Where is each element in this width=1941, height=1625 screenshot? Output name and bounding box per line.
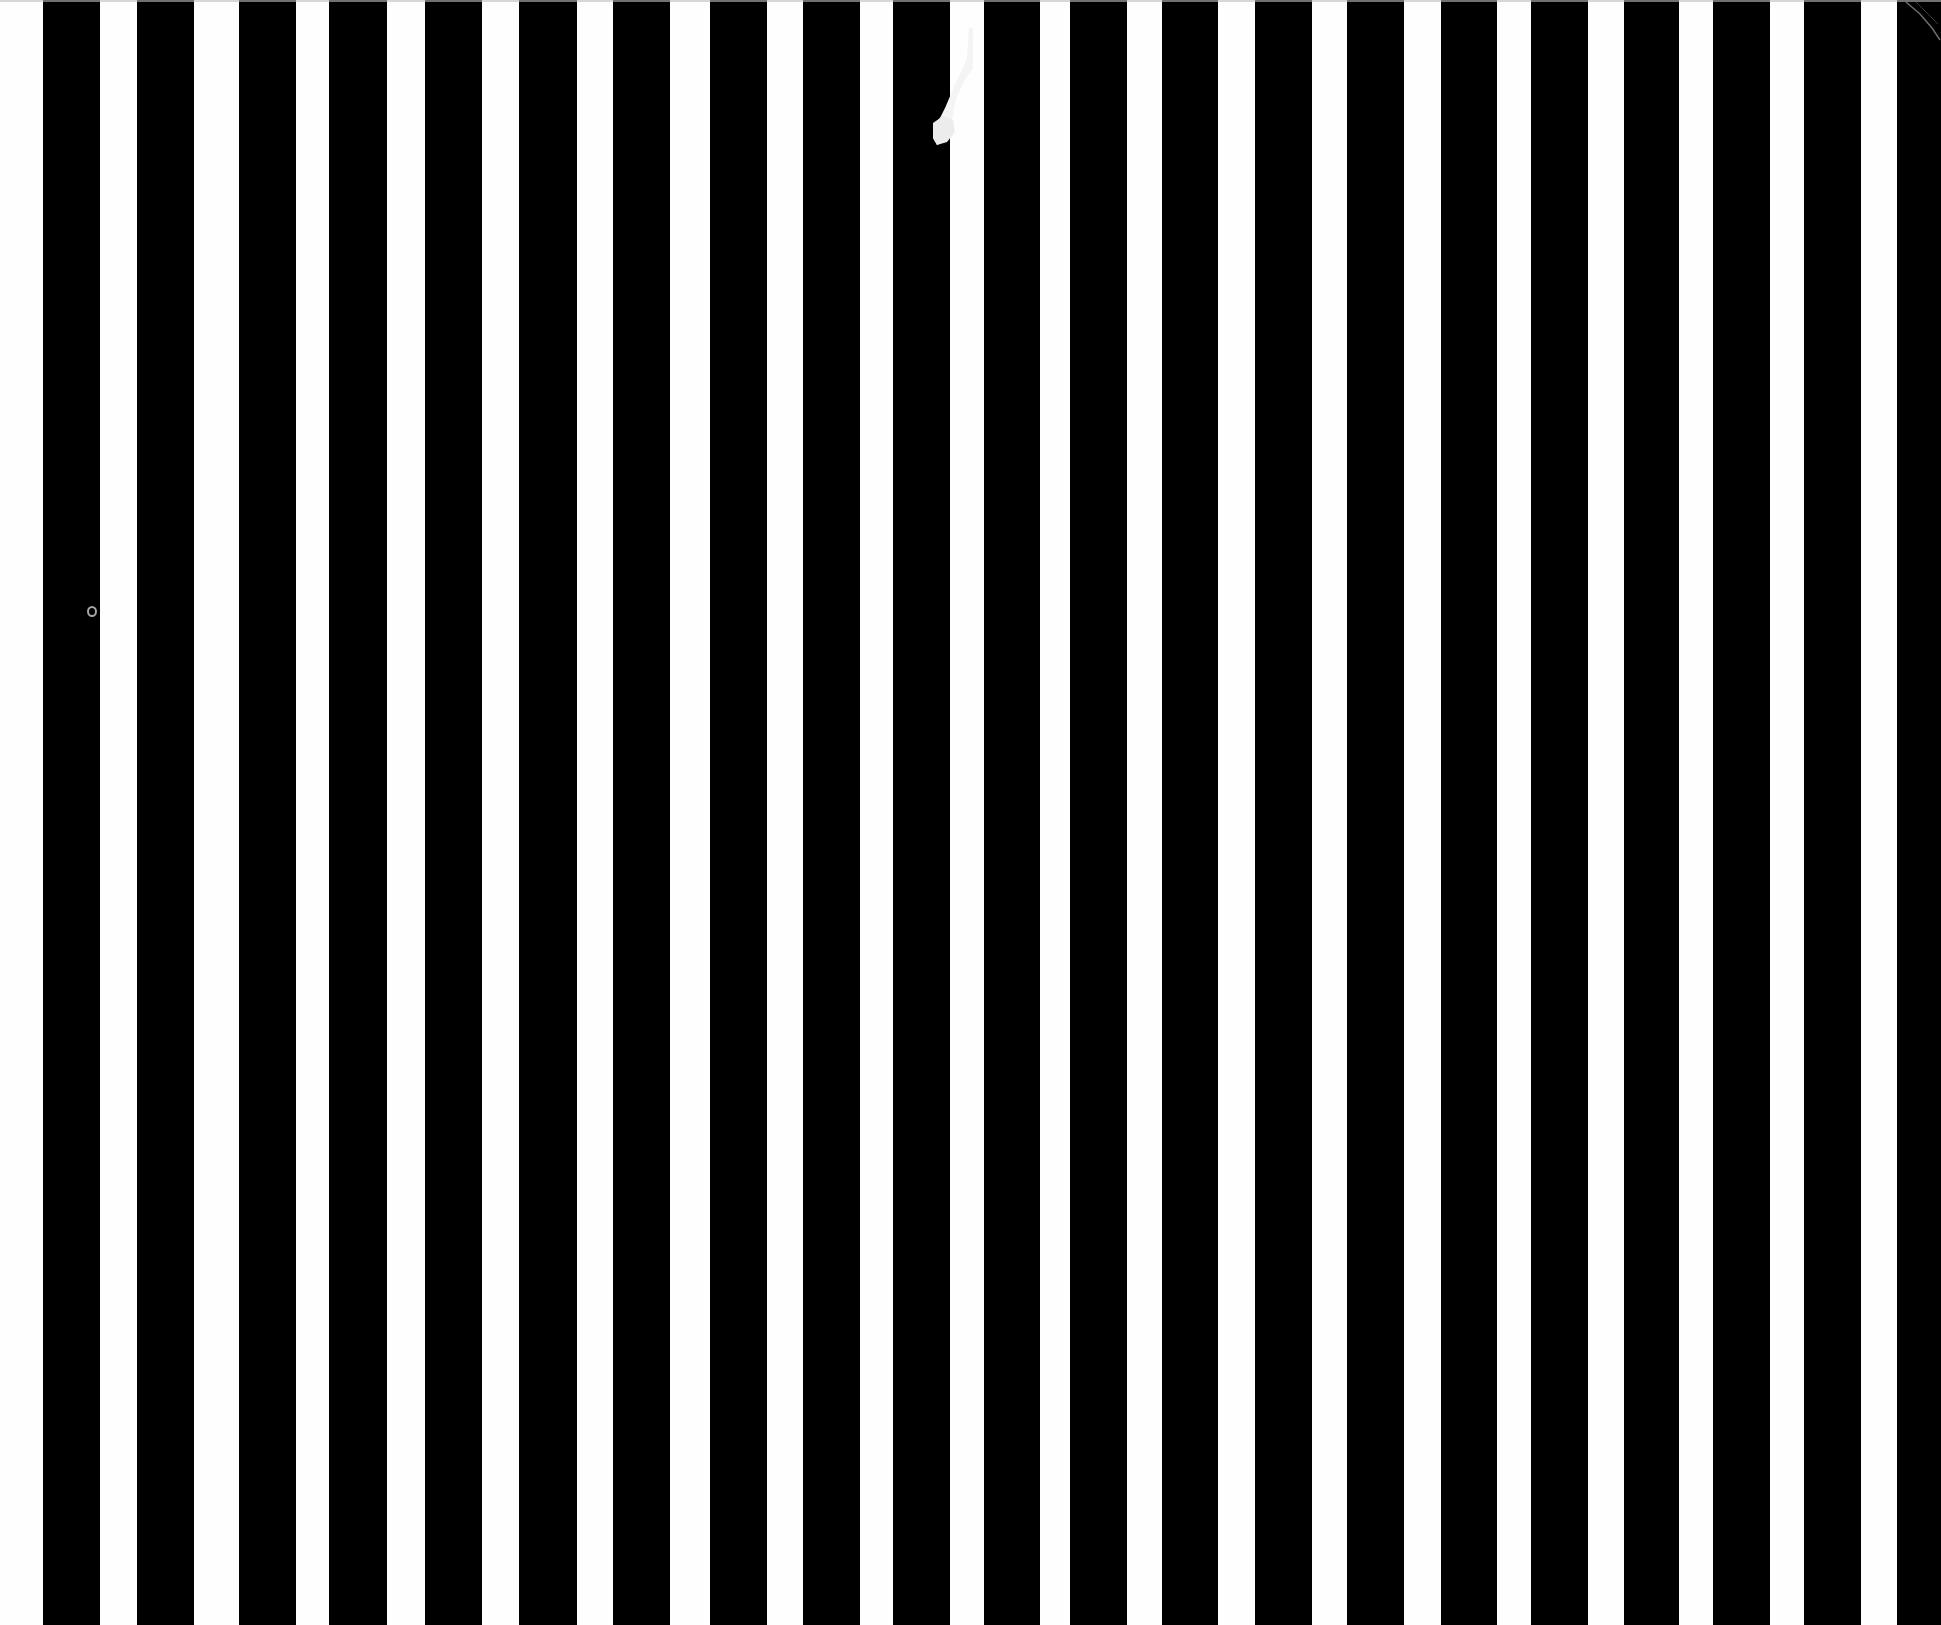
- black-stripe: [1897, 0, 1941, 1625]
- black-stripe: [137, 0, 194, 1625]
- black-stripe: [1255, 0, 1312, 1625]
- black-stripe: [425, 0, 482, 1625]
- dust-mark: [87, 606, 97, 617]
- black-stripe: [1804, 0, 1861, 1625]
- black-stripe: [893, 0, 950, 1625]
- black-stripe: [1441, 0, 1497, 1625]
- black-stripe: [1531, 0, 1588, 1625]
- paper-tear-mark: [933, 28, 973, 146]
- black-stripe: [329, 0, 387, 1625]
- black-stripe: [1347, 0, 1404, 1625]
- black-stripe: [984, 0, 1040, 1625]
- black-stripe: [803, 0, 860, 1625]
- striped-artwork: [0, 0, 1941, 1625]
- black-stripe: [710, 0, 767, 1625]
- black-stripe: [239, 0, 296, 1625]
- black-stripe: [519, 0, 577, 1625]
- black-stripe: [1713, 0, 1770, 1625]
- black-stripe: [1070, 0, 1127, 1625]
- black-stripe: [1624, 0, 1679, 1625]
- black-stripe: [43, 0, 100, 1625]
- black-stripe: [1162, 0, 1218, 1625]
- black-stripe: [613, 0, 670, 1625]
- corner-scratch-mark: [1900, 0, 1941, 48]
- top-edge-line: [0, 0, 1941, 2]
